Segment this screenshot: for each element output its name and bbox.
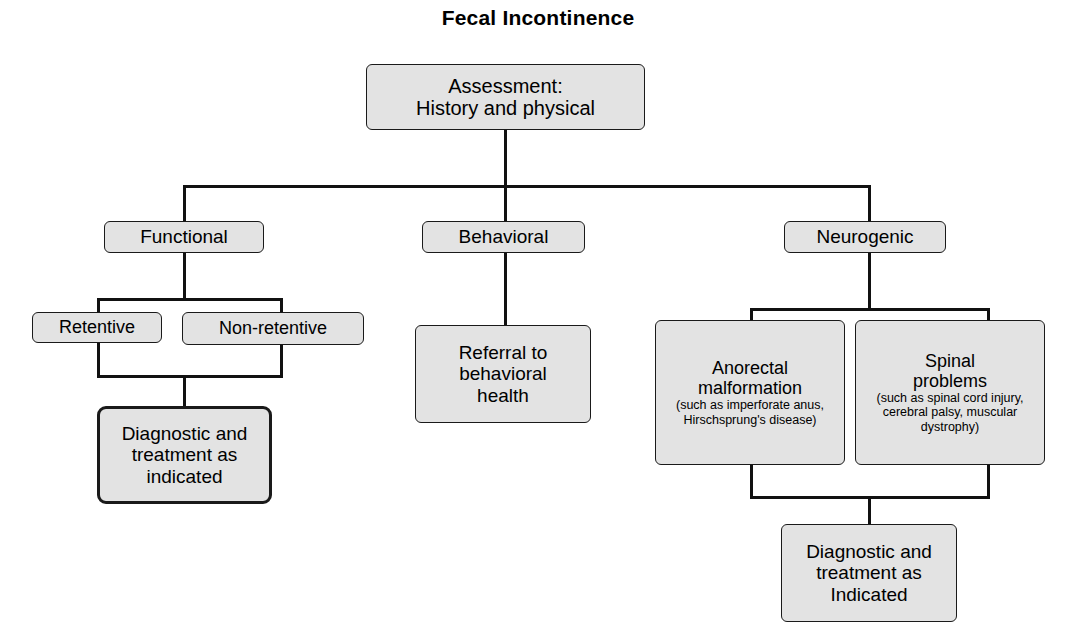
node-assessment-line1: Assessment: — [448, 75, 562, 97]
node-retentive-label: Retentive — [59, 317, 135, 337]
node-referral-line2: behavioral — [459, 363, 547, 384]
node-spinal-sub3: dystrophy) — [921, 420, 979, 435]
node-functional[interactable]: Functional — [104, 221, 264, 253]
connector-bus-to-functional — [183, 185, 186, 223]
node-neurogenic[interactable]: Neurogenic — [784, 221, 946, 253]
node-diagnostic-right-line2: treatment as — [816, 562, 922, 583]
connector-behavioral-down — [504, 251, 507, 331]
node-diagnostic-left-line2: treatment as — [132, 444, 238, 465]
node-spinal-line1: Spinal — [925, 351, 975, 371]
node-spinal-sub1: (such as spinal cord injury, — [876, 391, 1023, 406]
node-anorectal-malformation[interactable]: Anorectal malformation (such as imperfor… — [655, 320, 845, 465]
node-anorectal-line1: Anorectal — [712, 358, 788, 378]
connector-anorectal-down — [750, 462, 753, 499]
node-diagnostic-right-line3: Indicated — [830, 584, 907, 605]
connector-neurogenic-split — [750, 308, 990, 311]
connector-assessment-down — [504, 130, 507, 186]
node-assessment-line2: History and physical — [416, 97, 595, 119]
node-spinal-line2: problems — [913, 371, 987, 391]
connector-neurogenic-merge-down — [868, 496, 871, 526]
node-spinal-problems[interactable]: Spinal problems (such as spinal cord inj… — [855, 320, 1045, 465]
connector-functional-merge — [97, 375, 283, 378]
connector-main-bus — [183, 185, 871, 188]
node-referral-line1: Referral to — [459, 342, 548, 363]
node-assessment[interactable]: Assessment: History and physical — [366, 64, 645, 130]
connector-neurogenic-down — [868, 251, 871, 311]
page-title: Fecal Incontinence — [0, 6, 1076, 30]
connector-bus-to-behavioral — [504, 185, 507, 223]
connector-functional-merge-down — [183, 375, 186, 409]
node-non-retentive[interactable]: Non-retentive — [182, 312, 364, 345]
node-diagnostic-treatment-right[interactable]: Diagnostic and treatment as Indicated — [781, 524, 957, 622]
node-neurogenic-label: Neurogenic — [816, 226, 913, 247]
connector-spinal-down — [987, 462, 990, 499]
node-anorectal-line2: malformation — [698, 378, 802, 398]
node-diagnostic-left-line3: indicated — [146, 466, 222, 487]
flowchart-canvas: Fecal Incontinence Assessment: History a… — [0, 0, 1076, 633]
node-anorectal-sub2: Hirschsprung's disease) — [684, 413, 817, 428]
node-non-retentive-label: Non-retentive — [219, 318, 327, 338]
node-functional-label: Functional — [140, 226, 228, 247]
node-anorectal-sub1: (such as imperforate anus, — [676, 398, 824, 413]
node-retentive[interactable]: Retentive — [32, 312, 162, 343]
connector-functional-split — [97, 298, 283, 301]
node-spinal-sub2: cerebral palsy, muscular — [883, 405, 1018, 420]
node-referral-behavioral-health[interactable]: Referral to behavioral health — [415, 325, 591, 423]
connector-bus-to-neurogenic — [868, 185, 871, 223]
node-diagnostic-right-line1: Diagnostic and — [806, 541, 932, 562]
node-behavioral[interactable]: Behavioral — [422, 221, 585, 253]
node-behavioral-label: Behavioral — [459, 226, 549, 247]
connector-functional-down — [183, 251, 186, 301]
node-referral-line3: health — [477, 385, 529, 406]
node-diagnostic-treatment-left[interactable]: Diagnostic and treatment as indicated — [97, 406, 272, 504]
node-diagnostic-left-line1: Diagnostic and — [122, 423, 248, 444]
